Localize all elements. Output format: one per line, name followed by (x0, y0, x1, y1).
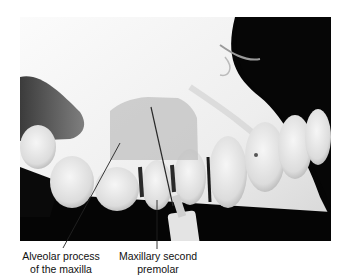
label-alveolar-process: Alveolar process of the maxilla (19, 250, 103, 276)
anatomy-figure: Alveolar process of the maxilla Maxillar… (0, 0, 347, 280)
label-line-2: premolar (118, 263, 198, 276)
label-maxillary-second-premolar: Maxillary second premolar (118, 250, 198, 276)
leader-line-alveolar (63, 143, 120, 248)
label-line-1: Alveolar process (19, 250, 103, 263)
label-line-2: of the maxilla (19, 263, 103, 276)
injection-region-overlay (110, 97, 198, 160)
label-line-1: Maxillary second (118, 250, 198, 263)
